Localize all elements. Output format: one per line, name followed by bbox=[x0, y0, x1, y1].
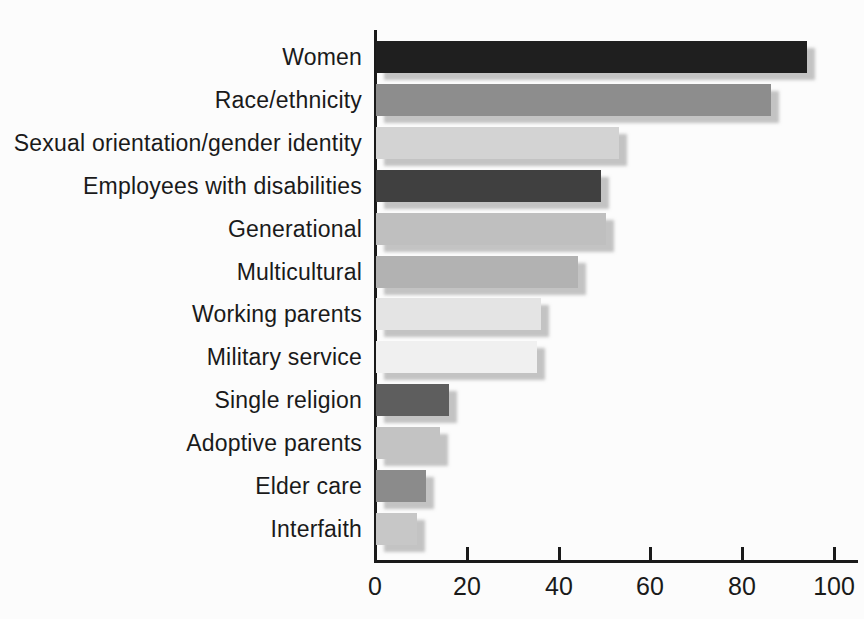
category-label: Working parents bbox=[192, 298, 362, 330]
x-tick-label: 100 bbox=[813, 572, 855, 601]
category-label: Multicultural bbox=[237, 256, 362, 288]
bar-adoptive-parents bbox=[376, 427, 440, 459]
x-tick bbox=[649, 547, 652, 561]
category-label: Women bbox=[282, 41, 362, 73]
x-tick-label: 80 bbox=[728, 572, 756, 601]
diversity-groups-bar-chart: WomenRace/ethnicitySexual orientation/ge… bbox=[0, 0, 864, 619]
bar-multicultural bbox=[376, 256, 578, 288]
category-label: Sexual orientation/gender identity bbox=[14, 127, 362, 159]
x-tick-label: 60 bbox=[636, 572, 664, 601]
x-tick-label: 0 bbox=[368, 572, 382, 601]
x-axis-line bbox=[374, 560, 858, 563]
bar-working-parents bbox=[376, 298, 541, 330]
bar-interfaith bbox=[376, 513, 417, 545]
bar-race-ethnicity bbox=[376, 84, 771, 116]
x-tick-label: 40 bbox=[545, 572, 573, 601]
category-label: Race/ethnicity bbox=[215, 84, 362, 116]
bar-women bbox=[376, 41, 807, 73]
category-label: Elder care bbox=[255, 470, 362, 502]
bar-generational bbox=[376, 213, 606, 245]
bar-single-religion bbox=[376, 384, 449, 416]
bar-sexual-orientation-gender-identity bbox=[376, 127, 619, 159]
category-label: Generational bbox=[228, 213, 362, 245]
bar-elder-care bbox=[376, 470, 426, 502]
x-tick bbox=[558, 547, 561, 561]
category-label: Adoptive parents bbox=[186, 427, 362, 459]
category-label: Military service bbox=[207, 341, 362, 373]
category-label: Single religion bbox=[215, 384, 362, 416]
x-tick bbox=[741, 547, 744, 561]
bar-military-service bbox=[376, 341, 537, 373]
x-tick bbox=[466, 547, 469, 561]
category-label: Interfaith bbox=[271, 513, 363, 545]
bar-employees-with-disabilities bbox=[376, 170, 601, 202]
x-tick bbox=[833, 547, 836, 561]
category-label: Employees with disabilities bbox=[83, 170, 362, 202]
x-tick-label: 20 bbox=[453, 572, 481, 601]
